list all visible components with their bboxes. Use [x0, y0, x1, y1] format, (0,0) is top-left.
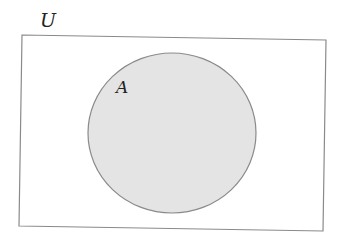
venn-diagram: U A — [0, 0, 347, 240]
set-a-circle — [88, 53, 256, 213]
universe-label: U — [40, 9, 57, 31]
set-a-label: A — [114, 77, 128, 97]
